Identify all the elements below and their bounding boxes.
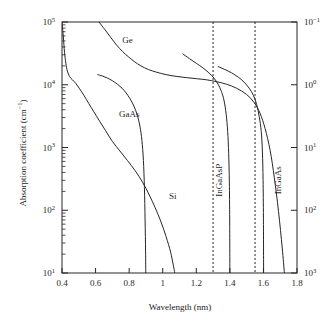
series-label-si: Si xyxy=(169,191,177,201)
x-tick-label: 1.8 xyxy=(291,278,303,288)
series-curve-si xyxy=(62,22,175,273)
x-tick-label: 1 xyxy=(160,278,165,288)
series-curve-gaas xyxy=(98,75,146,273)
absorption-coefficient-chart: Absorption coefficient (cm−1) Wavelength… xyxy=(0,0,336,321)
y-tick-label-left: 102 xyxy=(43,204,55,216)
y-tick-label-left: 105 xyxy=(43,16,56,28)
y-tick-label-left: 101 xyxy=(43,267,55,279)
x-tick-label: 0.8 xyxy=(124,278,136,288)
x-tick-label: 0.6 xyxy=(90,278,102,288)
y-tick-label-right: 101 xyxy=(304,141,316,153)
series-label-ingaasp: InGaAsP xyxy=(214,164,224,197)
y-tick-label-right: 10−1 xyxy=(304,16,320,28)
x-tick-label: 1.2 xyxy=(191,278,202,288)
series-group xyxy=(62,22,284,273)
series-curve-ingaas xyxy=(218,67,263,273)
series-label-ge: Ge xyxy=(122,35,133,45)
plot-canvas: 0.40.60.811.21.41.61.8101103102102103101… xyxy=(0,0,336,321)
x-tick-label: 0.4 xyxy=(56,278,68,288)
y-tick-label-right: 102 xyxy=(304,204,316,216)
y-tick-label-left: 104 xyxy=(43,78,56,90)
x-tick-label: 1.6 xyxy=(258,278,270,288)
y-tick-label-right: 100 xyxy=(304,78,317,90)
series-curve-ingaasp xyxy=(183,54,230,273)
series-label-gaas: GaAs xyxy=(119,109,140,119)
y-tick-label-left: 103 xyxy=(43,141,56,153)
series-label-ingaas: InGaAs xyxy=(273,166,283,194)
y-tick-label-right: 103 xyxy=(304,267,317,279)
x-tick-label: 1.4 xyxy=(224,278,236,288)
